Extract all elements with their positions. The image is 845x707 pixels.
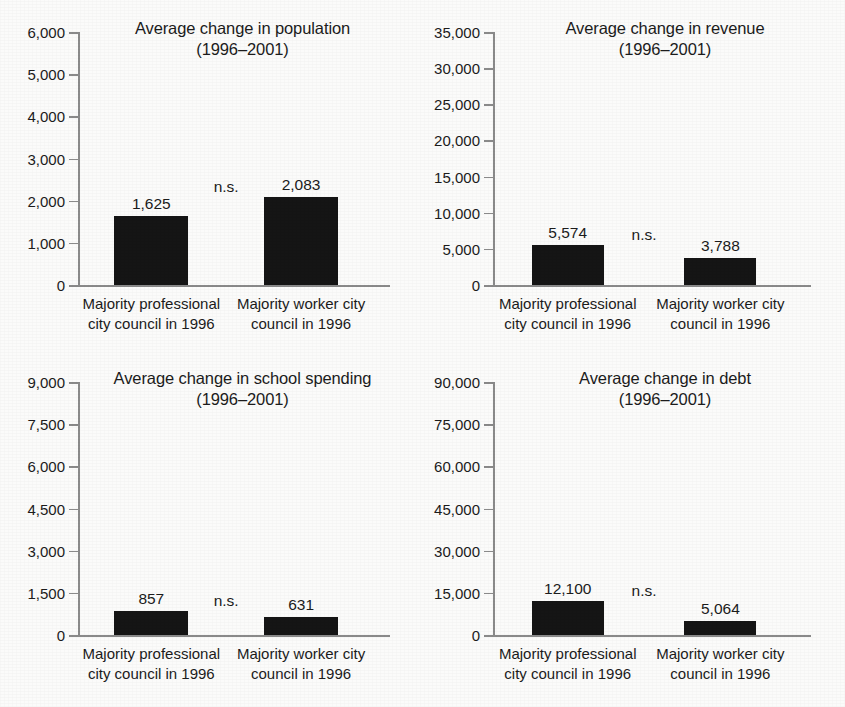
- significance-annotation: n.s.: [214, 178, 239, 195]
- y-axis-tick: [69, 509, 78, 511]
- bar-value-label: 2,083: [282, 176, 321, 197]
- y-axis-tick-label: 25,000: [434, 97, 480, 112]
- category-label-line: council in 1996: [615, 664, 825, 684]
- y-axis-tick: [484, 466, 493, 468]
- y-axis-tick: [484, 635, 493, 637]
- y-axis-line: [78, 32, 80, 285]
- y-axis-tick-label: 75,000: [434, 417, 480, 432]
- x-axis-line: [78, 635, 390, 637]
- y-axis-tick: [69, 285, 78, 287]
- y-axis-tick-label: 0: [57, 628, 65, 643]
- y-axis-tick-label: 1,500: [27, 585, 65, 600]
- four-panel-bar-chart-figure: Average change in population(1996–2001)0…: [0, 0, 845, 707]
- y-axis-tick-label: 90,000: [434, 375, 480, 390]
- y-axis-tick: [484, 249, 493, 251]
- y-axis-tick-label: 5,000: [442, 241, 480, 256]
- y-axis-tick: [484, 213, 493, 215]
- y-axis-tick: [69, 593, 78, 595]
- category-label-line: council in 1996: [196, 664, 406, 684]
- bar-value-label: 1,625: [132, 195, 171, 216]
- category-label-line: council in 1996: [615, 314, 825, 334]
- x-axis-line: [78, 285, 390, 287]
- y-axis-tick-label: 9,000: [27, 375, 65, 390]
- bar: [114, 216, 188, 285]
- y-axis-tick: [69, 32, 78, 34]
- bar: [114, 611, 188, 635]
- bar: [684, 621, 756, 635]
- y-axis-tick-label: 6,000: [27, 459, 65, 474]
- bar: [264, 617, 338, 635]
- y-axis-tick-label: 1,000: [27, 235, 65, 250]
- bar-value-label: 857: [138, 590, 164, 611]
- y-axis-tick-label: 30,000: [434, 61, 480, 76]
- x-axis-category-label: Majority worker citycouncil in 1996: [615, 644, 825, 684]
- y-axis-line: [493, 32, 495, 285]
- y-axis-tick: [69, 424, 78, 426]
- y-axis-tick: [484, 593, 493, 595]
- y-axis-tick: [484, 509, 493, 511]
- plot-area: 01,0002,0003,0004,0005,0006,0001,6252,08…: [78, 32, 390, 285]
- y-axis-tick: [69, 201, 78, 203]
- category-label-line: Majority worker city: [615, 644, 825, 664]
- y-axis-tick-label: 10,000: [434, 205, 480, 220]
- chart-panel-revenue: Average change in revenue(1996–2001)05,0…: [415, 0, 845, 350]
- y-axis-tick: [484, 32, 493, 34]
- y-axis-tick-label: 20,000: [434, 133, 480, 148]
- chart-panel-school-spending: Average change in school spending(1996–2…: [0, 350, 415, 707]
- y-axis-tick: [484, 382, 493, 384]
- y-axis-tick: [484, 104, 493, 106]
- y-axis-tick-label: 2,000: [27, 193, 65, 208]
- y-axis-tick-label: 45,000: [434, 501, 480, 516]
- y-axis-tick: [69, 74, 78, 76]
- x-axis-category-label: Majority worker citycouncil in 1996: [615, 294, 825, 334]
- significance-annotation: n.s.: [632, 582, 657, 599]
- bar: [532, 245, 604, 285]
- x-axis-line: [493, 285, 811, 287]
- y-axis-tick-label: 4,500: [27, 501, 65, 516]
- bar-value-label: 631: [288, 596, 314, 617]
- y-axis-tick: [484, 177, 493, 179]
- y-axis-tick-label: 3,000: [27, 151, 65, 166]
- bar: [532, 601, 604, 635]
- x-axis-category-label: Majority worker citycouncil in 1996: [196, 644, 406, 684]
- y-axis-tick-label: 6,000: [27, 25, 65, 40]
- category-label-line: council in 1996: [196, 314, 406, 334]
- y-axis-line: [493, 382, 495, 635]
- bar: [684, 258, 756, 285]
- y-axis-tick: [69, 243, 78, 245]
- y-axis-tick-label: 15,000: [434, 169, 480, 184]
- bar-value-label: 5,064: [701, 600, 740, 621]
- y-axis-tick: [484, 424, 493, 426]
- bar: [264, 197, 338, 285]
- y-axis-tick-label: 3,000: [27, 543, 65, 558]
- y-axis-tick-label: 15,000: [434, 585, 480, 600]
- y-axis-tick: [69, 382, 78, 384]
- y-axis-tick: [69, 466, 78, 468]
- y-axis-tick-label: 4,000: [27, 109, 65, 124]
- bar-value-label: 5,574: [548, 224, 587, 245]
- y-axis-tick-label: 30,000: [434, 543, 480, 558]
- y-axis-tick-label: 5,000: [27, 67, 65, 82]
- category-label-line: Majority worker city: [196, 294, 406, 314]
- y-axis-tick: [484, 285, 493, 287]
- y-axis-tick-label: 7,500: [27, 417, 65, 432]
- y-axis-tick: [69, 116, 78, 118]
- y-axis-line: [78, 382, 80, 635]
- y-axis-tick-label: 60,000: [434, 459, 480, 474]
- y-axis-tick-label: 0: [57, 278, 65, 293]
- y-axis-tick: [484, 140, 493, 142]
- x-axis-category-label: Majority worker citycouncil in 1996: [196, 294, 406, 334]
- category-label-line: Majority worker city: [615, 294, 825, 314]
- y-axis-tick-label: 0: [472, 278, 480, 293]
- significance-annotation: n.s.: [214, 592, 239, 609]
- y-axis-tick: [69, 159, 78, 161]
- significance-annotation: n.s.: [632, 226, 657, 243]
- category-label-line: Majority worker city: [196, 644, 406, 664]
- plot-area: 01,5003,0004,5006,0007,5009,000857631n.s…: [78, 382, 390, 635]
- y-axis-tick: [484, 551, 493, 553]
- chart-panel-population: Average change in population(1996–2001)0…: [0, 0, 415, 350]
- y-axis-tick: [484, 68, 493, 70]
- plot-area: 05,00010,00015,00020,00025,00030,00035,0…: [493, 32, 811, 285]
- bar-value-label: 12,100: [544, 580, 591, 601]
- chart-panel-debt: Average change in debt(1996–2001)015,000…: [415, 350, 845, 707]
